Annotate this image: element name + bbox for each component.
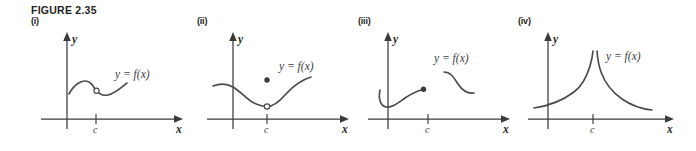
y-axis-label: y — [70, 33, 78, 46]
panel-i-graph: y = f(x) y x c — [31, 16, 201, 148]
panel-ii-graph: y = f(x) y x c — [197, 16, 367, 148]
closed-point-marker — [264, 77, 269, 82]
y-axis-arrowhead — [384, 32, 392, 41]
x-tick-label-c: c — [425, 124, 430, 135]
function-curve-left — [534, 51, 593, 108]
curve-label: y = f(x) — [433, 52, 469, 65]
curve-label: y = f(x) — [605, 50, 641, 63]
panel-iv-graph: y = f(x) y x c — [518, 16, 688, 148]
x-axis-label: x — [341, 123, 348, 135]
panel-iii: (iii) y = f(x) y x c — [358, 16, 528, 148]
panel-iv: (iv) y = f(x) y x c — [518, 16, 688, 148]
y-axis-arrowhead — [63, 32, 71, 41]
closed-point-marker — [421, 87, 426, 92]
x-axis-arrowhead — [501, 115, 510, 123]
panel-ii: (ii) y = f(x) y x c — [197, 16, 367, 148]
function-curve-right — [444, 72, 474, 93]
y-axis-arrowhead — [229, 32, 237, 41]
function-curve-left — [379, 90, 423, 108]
figure-container: FIGURE 2.35 (i) y = f(x) y x c (ii) — [0, 0, 696, 151]
y-axis-label: y — [391, 33, 399, 46]
x-axis-label: x — [175, 123, 182, 135]
y-axis-label: y — [236, 33, 244, 46]
x-tick-label-c: c — [264, 124, 269, 135]
curve-label: y = f(x) — [114, 68, 150, 81]
x-axis-arrowhead — [340, 115, 349, 123]
panel-i: (i) y = f(x) y x c — [31, 16, 201, 148]
y-axis-label: y — [551, 33, 559, 46]
x-axis-label: x — [502, 123, 509, 135]
x-tick-label-c: c — [590, 124, 595, 135]
x-tick-label-c: c — [93, 124, 98, 135]
curve-label: y = f(x) — [278, 60, 314, 73]
y-axis-arrowhead — [544, 32, 552, 41]
x-axis-arrowhead — [174, 115, 183, 123]
open-point-marker — [94, 88, 99, 93]
function-curve — [213, 77, 311, 107]
panel-iii-graph: y = f(x) y x c — [358, 16, 528, 148]
open-point-marker — [264, 104, 269, 109]
x-axis-arrowhead — [665, 115, 674, 123]
figure-caption: FIGURE 2.35 — [31, 4, 97, 16]
x-axis-label: x — [666, 123, 673, 135]
